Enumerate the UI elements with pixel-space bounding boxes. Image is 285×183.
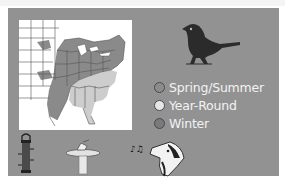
tube-feeder-icon — [16, 132, 36, 174]
legend-item-spring-summer: Spring/Summer — [154, 78, 264, 96]
range-info-panel: Spring/Summer Year-Round Winter ♪♫ — [8, 8, 279, 176]
svg-text:♪♫: ♪♫ — [130, 144, 144, 154]
legend-label: Winter — [169, 116, 209, 131]
spring-summer-swatch — [154, 82, 165, 93]
singing-bird-icon: ♪♫ — [128, 136, 190, 178]
legend-label: Spring/Summer — [169, 80, 264, 95]
year-round-swatch — [154, 100, 165, 111]
range-map — [19, 20, 132, 130]
us-states-map — [19, 20, 132, 130]
top-caption-strip — [0, 0, 285, 6]
legend-item-winter: Winter — [154, 114, 264, 132]
birdbath-icon — [65, 136, 101, 176]
legend-label: Year-Round — [169, 98, 237, 113]
winter-swatch — [154, 118, 165, 129]
season-legend: Spring/Summer Year-Round Winter — [154, 78, 264, 132]
legend-item-year-round: Year-Round — [154, 96, 264, 114]
songbird-silhouette-icon — [178, 20, 248, 70]
